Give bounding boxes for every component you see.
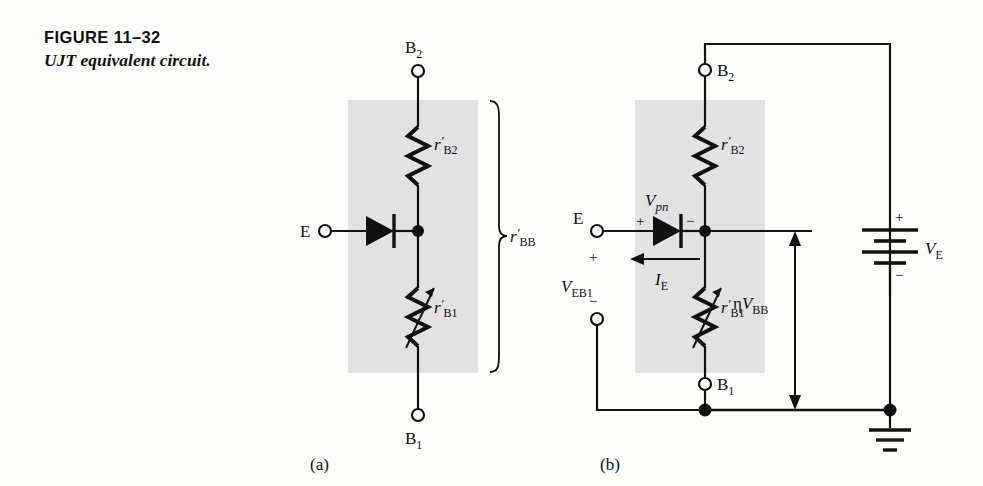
polarity-ve-minus: − [895,267,903,283]
label-veb1: VEB1 [561,277,593,300]
eta-vbb-arrowhead-up [789,231,801,246]
label-b1-a: B1 [405,429,422,452]
polarity-veb1-minus: − [589,293,597,309]
eta-vbb-arrowhead-down [789,395,801,410]
label-e-a: E [300,222,310,241]
terminal-e-lower-b[interactable] [591,313,603,325]
terminal-b2-a[interactable] [412,65,424,77]
label-b2-a: B2 [405,38,422,61]
terminal-b1-b[interactable] [699,378,711,390]
polarity-vpn-plus: + [636,213,644,229]
brace-rbb-a [490,101,507,372]
polarity-vpn-minus: − [686,213,694,229]
label-ve: VE [925,239,943,262]
panel-caption-b: (b) [600,455,620,474]
circuit-drawing: B2 r′B2 E r′B1 B1 r′BB (a) B2 [0,0,983,486]
panel-caption-a: (a) [310,455,329,474]
polarity-veb1-plus: + [589,249,597,265]
polarity-ve-plus: + [895,209,903,225]
terminal-b2-b[interactable] [699,64,711,76]
terminal-b1-a[interactable] [412,409,424,421]
terminal-e-a[interactable] [319,225,331,237]
figure-11-32: FIGURE 11–32 UJT equivalent circuit. B2 … [0,0,983,486]
label-b1-b: B1 [717,375,734,398]
junction-dot-b1-rail [699,404,712,417]
terminal-e-b[interactable] [591,225,603,237]
label-b2-b: B2 [717,61,734,84]
label-rbb-a: r′BB [510,225,535,249]
label-e-b: E [573,209,583,228]
